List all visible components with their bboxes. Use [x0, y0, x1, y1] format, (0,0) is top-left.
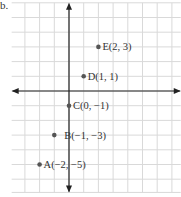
point-label-c: C(0, −1): [73, 100, 109, 112]
point-label-e: E(2, 3): [102, 41, 132, 53]
point-b: [52, 133, 57, 138]
grid-lines: [12, 3, 181, 193]
point-a: [37, 162, 42, 167]
point-c: [67, 103, 72, 108]
point-label-b: B(−1, −3): [64, 130, 106, 142]
arrow-up-icon: [66, 3, 72, 10]
plotted-points: A(−2, −5)B(−1, −3)C(0, −1)D(1, 1)E(2, 3): [37, 41, 132, 171]
coordinate-plane: A(−2, −5)B(−1, −3)C(0, −1)D(1, 1)E(2, 3): [0, 0, 181, 197]
point-label-d: D(1, 1): [88, 71, 119, 83]
point-label-a: A(−2, −5): [44, 159, 87, 171]
axes: [12, 3, 181, 193]
arrow-right-icon: [174, 88, 181, 94]
arrow-left-icon: [12, 88, 19, 94]
point-e: [96, 45, 101, 50]
point-d: [81, 74, 86, 79]
arrow-down-icon: [66, 185, 72, 192]
